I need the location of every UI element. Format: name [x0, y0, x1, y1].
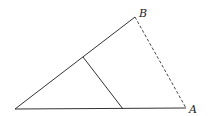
triangle-diagram: B A [0, 0, 209, 116]
side-b-a-dashed [135, 17, 186, 108]
inner-segment-p-q [83, 57, 123, 109]
label-b: B [138, 7, 147, 20]
label-a: A [188, 103, 197, 116]
side-o-b [15, 17, 135, 109]
side-o-a [15, 108, 186, 109]
